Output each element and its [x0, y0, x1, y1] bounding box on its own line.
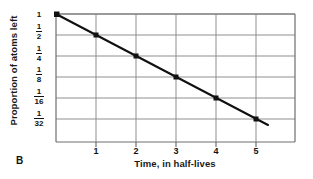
data-point-0 — [54, 12, 60, 18]
data-point-4 — [214, 96, 219, 101]
plot-area — [0, 0, 313, 179]
data-point-3 — [174, 75, 179, 80]
figure-panel-b: Proportion of atoms left 1 1 2 1 4 1 8 1… — [0, 0, 313, 179]
x-tick-label-1: 1 — [88, 146, 104, 156]
x-tick-label-2: 2 — [128, 146, 144, 156]
x-tick-label-5: 5 — [248, 146, 264, 156]
x-tick-label-3: 3 — [168, 146, 184, 156]
decay-line-series — [57, 15, 268, 126]
data-point-5 — [254, 117, 259, 122]
panel-letter: B — [16, 155, 23, 166]
data-point-2 — [134, 54, 139, 59]
x-axis-title: Time, in half-lives — [55, 158, 295, 169]
x-tick-label-4: 4 — [208, 146, 224, 156]
data-point-1 — [94, 33, 99, 38]
